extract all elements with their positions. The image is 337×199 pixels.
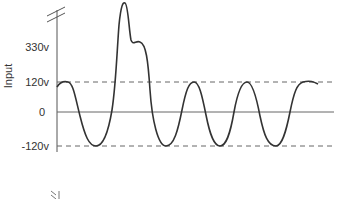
y-tick-120v: 120v xyxy=(25,76,49,88)
y-tick-zero: 0 xyxy=(39,106,45,118)
y-axis-title: Input xyxy=(2,64,14,88)
waveform-curve xyxy=(57,3,318,146)
axis-break-icon-bottom xyxy=(51,191,59,199)
y-tick-minus-120v: -120v xyxy=(21,140,49,152)
axis-break-icon-top xyxy=(47,7,65,22)
y-tick-330v: 330v xyxy=(25,41,49,53)
waveform-diagram: 330v 120v 0 -120v Input xyxy=(0,0,337,199)
